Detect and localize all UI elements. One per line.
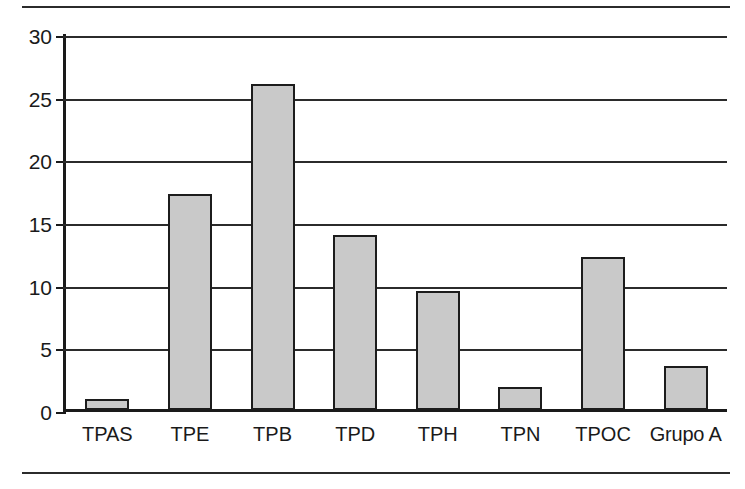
y-axis-tick-mark [56, 287, 63, 289]
bar-tpn [498, 387, 542, 410]
x-axis-tick-label: TPB [231, 424, 314, 444]
y-axis-tick-label: 30 [29, 26, 52, 47]
bar-chart-figure: 051015202530 TPASTPETPBTPDTPHTPNTPOCGrup… [0, 0, 745, 489]
bar-slot [66, 36, 149, 410]
y-axis-tick-label: 10 [29, 276, 52, 297]
bar-tpb [251, 84, 295, 410]
bar-slot [397, 36, 480, 410]
y-axis-tick-label: 5 [40, 339, 52, 360]
x-axis-tick-label: TPOC [562, 424, 645, 444]
bars-group [66, 36, 727, 410]
bar-tpas [85, 399, 129, 410]
y-axis-tick-label: 15 [29, 214, 52, 235]
y-axis-tick-mark [56, 161, 63, 163]
y-axis-tick-mark [56, 36, 63, 38]
x-axis-tick-label: TPD [314, 424, 397, 444]
bar-tpd [333, 235, 377, 410]
bar-grupo-a [664, 366, 708, 410]
x-axis-tick-label: TPAS [66, 424, 149, 444]
bar-slot [479, 36, 562, 410]
y-axis-tick-mark [56, 349, 63, 351]
x-axis-tick-label: Grupo A [644, 424, 727, 444]
y-axis-tick-mark [56, 412, 63, 414]
x-axis-tick-label: TPH [397, 424, 480, 444]
bar-tpe [168, 194, 212, 410]
plot-area: 051015202530 [63, 36, 727, 412]
bar-slot [314, 36, 397, 410]
figure-bottom-rule [22, 472, 730, 474]
x-axis-tick-label: TPN [479, 424, 562, 444]
y-axis-tick-label: 20 [29, 151, 52, 172]
bar-slot [231, 36, 314, 410]
x-axis-tick-label: TPE [149, 424, 232, 444]
figure-top-rule [22, 6, 730, 8]
bar-slot [149, 36, 232, 410]
x-axis-tick-labels: TPASTPETPBTPDTPHTPNTPOCGrupo A [66, 424, 727, 444]
y-axis-tick-mark [56, 99, 63, 101]
y-axis-tick-label: 0 [40, 402, 52, 423]
bar-slot [562, 36, 645, 410]
bar-tph [416, 291, 460, 410]
bar-slot [644, 36, 727, 410]
bar-tpoc [581, 257, 625, 410]
y-axis-tick-mark [56, 224, 63, 226]
y-axis-tick-label: 25 [29, 88, 52, 109]
